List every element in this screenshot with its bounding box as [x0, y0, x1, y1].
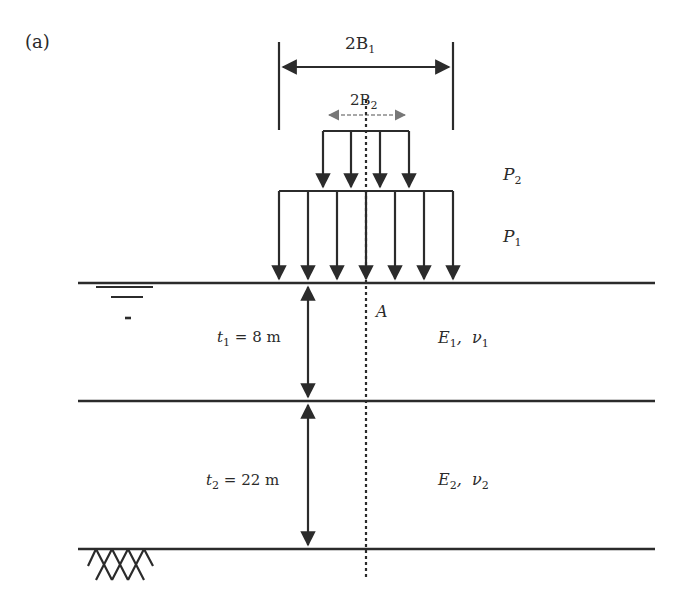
soil-layer-diagram — [0, 0, 688, 616]
water-table-icon — [96, 287, 153, 318]
layer2-properties-label: E2, ν2 — [438, 472, 489, 491]
outer-width-label: 2B1 — [345, 35, 375, 55]
rigid-base-hatch-icon — [88, 549, 153, 580]
layer2-thickness-label: t2 = 22 m — [206, 473, 279, 491]
point-a-label: A — [376, 304, 388, 320]
load-p1-label: P1 — [503, 228, 521, 248]
layer1-properties-label: E1, ν1 — [438, 330, 489, 349]
outer-width-dimension — [279, 42, 453, 130]
layer1-thickness-label: t1 = 8 m — [217, 330, 281, 348]
load-p2-label: P2 — [503, 166, 521, 186]
panel-label: (a) — [25, 33, 50, 51]
inner-width-label: 2B2 — [350, 93, 378, 111]
